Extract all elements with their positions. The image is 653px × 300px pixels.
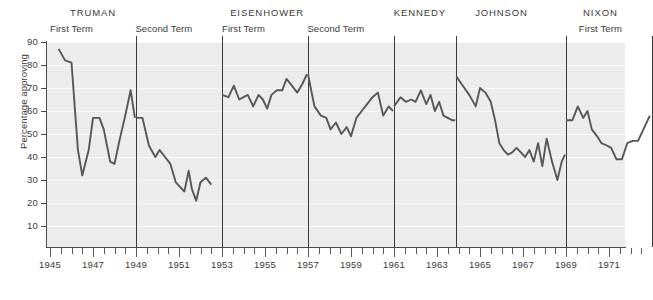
x-tick-label-1945: 1945 bbox=[30, 259, 70, 270]
x-tick-1956.5 bbox=[297, 248, 298, 254]
x-tick-label-1961: 1961 bbox=[374, 259, 414, 270]
president-term-truman-1: First Term bbox=[50, 23, 93, 34]
x-tick-1960 bbox=[373, 248, 374, 254]
x-tick-1955.5 bbox=[276, 248, 277, 254]
x-tick-1950.5 bbox=[168, 248, 169, 254]
approval-line-series bbox=[47, 42, 625, 247]
x-tick-1966.5 bbox=[512, 248, 513, 254]
y-tick-60 bbox=[41, 111, 47, 112]
y-tick-40 bbox=[41, 157, 47, 158]
x-tick-1949.5 bbox=[147, 248, 148, 254]
y-tick-90 bbox=[41, 42, 47, 43]
x-tick-label-1959: 1959 bbox=[331, 259, 371, 270]
series-segment-truman-second-term bbox=[136, 118, 211, 201]
x-tick-1950 bbox=[158, 248, 159, 254]
x-tick-label-1971: 1971 bbox=[589, 259, 629, 270]
x-tick-1967 bbox=[523, 248, 524, 257]
series-segment-nixon-first-term bbox=[566, 106, 650, 159]
y-axis bbox=[46, 41, 47, 248]
x-tick-1945.5 bbox=[61, 248, 62, 254]
x-tick-1972.5 bbox=[641, 248, 642, 254]
x-tick-1964.5 bbox=[469, 248, 470, 254]
x-tick-1957 bbox=[308, 248, 309, 257]
president-term-truman-2: Second Term bbox=[135, 23, 192, 34]
x-tick-1959 bbox=[351, 248, 352, 257]
divider-tick-1949 bbox=[136, 36, 137, 42]
y-tick-label-10: 10 bbox=[12, 220, 38, 231]
y-tick-30 bbox=[41, 180, 47, 181]
x-tick-1946.5 bbox=[82, 248, 83, 254]
x-tick-label-1957: 1957 bbox=[288, 259, 328, 270]
president-name-nixon: NIXON bbox=[583, 7, 618, 18]
y-tick-10 bbox=[41, 226, 47, 227]
x-tick-1962.5 bbox=[426, 248, 427, 254]
x-tick-label-1947: 1947 bbox=[73, 259, 113, 270]
x-tick-1968.5 bbox=[555, 248, 556, 254]
x-tick-1970 bbox=[588, 248, 589, 254]
x-tick-label-1949: 1949 bbox=[116, 259, 156, 270]
x-tick-1958 bbox=[330, 248, 331, 254]
x-tick-label-1965: 1965 bbox=[460, 259, 500, 270]
x-tick-1952.5 bbox=[211, 248, 212, 254]
president-term-eisenhower-2: Second Term bbox=[307, 23, 364, 34]
series-segment-eisenhower-first-term bbox=[222, 74, 307, 109]
x-tick-1951 bbox=[179, 248, 180, 257]
x-tick-1947.5 bbox=[104, 248, 105, 254]
x-tick-1953.5 bbox=[233, 248, 234, 254]
x-tick-1953 bbox=[222, 248, 223, 257]
x-tick-1947 bbox=[93, 248, 94, 257]
x-tick-1969 bbox=[566, 248, 567, 257]
y-tick-50 bbox=[41, 134, 47, 135]
y-tick-70 bbox=[41, 88, 47, 89]
president-name-eisenhower: EISENHOWER bbox=[230, 7, 304, 18]
y-tick-20 bbox=[41, 203, 47, 204]
x-tick-1946 bbox=[72, 248, 73, 254]
x-tick-1965 bbox=[480, 248, 481, 257]
x-tick-1963 bbox=[437, 248, 438, 257]
x-tick-1945 bbox=[50, 248, 51, 257]
x-tick-1949 bbox=[136, 248, 137, 257]
x-tick-1952 bbox=[201, 248, 202, 254]
x-tick-1960.5 bbox=[383, 248, 384, 254]
divider-tick-1963.9 bbox=[456, 36, 457, 42]
x-tick-1965.5 bbox=[491, 248, 492, 254]
x-tick-1951.5 bbox=[190, 248, 191, 254]
x-axis bbox=[46, 247, 626, 248]
divider-tick-1953 bbox=[222, 36, 223, 42]
x-tick-1971.5 bbox=[620, 248, 621, 254]
series-segment-eisenhower-second-term bbox=[308, 74, 393, 136]
series-segment-johnson bbox=[456, 77, 565, 181]
series-segment-kennedy bbox=[394, 90, 455, 120]
x-tick-1958.5 bbox=[340, 248, 341, 254]
x-tick-1963.5 bbox=[448, 248, 449, 254]
plot-area bbox=[47, 42, 625, 247]
x-tick-1966 bbox=[502, 248, 503, 254]
x-tick-label-1967: 1967 bbox=[503, 259, 543, 270]
x-tick-1971 bbox=[609, 248, 610, 257]
x-tick-label-1963: 1963 bbox=[417, 259, 457, 270]
y-tick-80 bbox=[41, 65, 47, 66]
y-axis-title: Percentage approving bbox=[18, 17, 29, 187]
x-tick-1955 bbox=[265, 248, 266, 257]
president-term-nixon-1: First Term bbox=[579, 23, 622, 34]
x-tick-1962 bbox=[416, 248, 417, 254]
x-tick-label-1969: 1969 bbox=[546, 259, 586, 270]
x-tick-1961 bbox=[394, 248, 395, 257]
divider-tick-1961 bbox=[394, 36, 395, 42]
x-tick-1968 bbox=[545, 248, 546, 254]
president-name-truman: TRUMAN bbox=[70, 7, 116, 18]
x-tick-1948 bbox=[115, 248, 116, 254]
x-tick-1954.5 bbox=[254, 248, 255, 254]
president-name-kennedy: KENNEDY bbox=[394, 7, 446, 18]
x-tick-1969.5 bbox=[577, 248, 578, 254]
x-tick-label-1953: 1953 bbox=[202, 259, 242, 270]
x-tick-1972 bbox=[631, 248, 632, 254]
x-tick-label-1955: 1955 bbox=[245, 259, 285, 270]
x-tick-1957.5 bbox=[319, 248, 320, 254]
y-tick-label-20: 20 bbox=[12, 197, 38, 208]
x-tick-1964 bbox=[459, 248, 460, 254]
divider-tick-1957 bbox=[308, 36, 309, 42]
x-tick-1954 bbox=[244, 248, 245, 254]
x-tick-1956 bbox=[287, 248, 288, 254]
